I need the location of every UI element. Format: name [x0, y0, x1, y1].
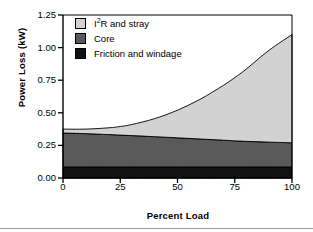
x-tick-label: 0	[46, 182, 80, 192]
chart-legend: I2R and stray Core Friction and windage	[75, 16, 182, 61]
area-series-0	[63, 167, 292, 178]
page-bottom-rule	[0, 228, 313, 229]
legend-item-stray: I2R and stray	[75, 16, 182, 31]
x-tick-label: 100	[275, 182, 309, 192]
legend-item-core: Core	[75, 31, 182, 46]
x-tick-label: 75	[218, 182, 252, 192]
legend-swatch-friction	[75, 48, 86, 59]
legend-label-friction: Friction and windage	[94, 47, 182, 61]
legend-label-core: Core	[94, 32, 115, 46]
x-tick-label: 50	[161, 182, 195, 192]
x-axis-title: Percent Load	[63, 210, 293, 221]
legend-swatch-stray	[75, 18, 86, 29]
legend-swatch-core	[75, 33, 86, 44]
chart-figure: Power Loss (kW) 1.25 1.00 0.75 0.50 0.25…	[0, 0, 313, 232]
legend-item-friction: Friction and windage	[75, 46, 182, 61]
x-tick-label: 25	[103, 182, 137, 192]
legend-label-stray: I2R and stray	[94, 17, 149, 31]
legend-label-stray-suffix: R and stray	[101, 18, 150, 29]
